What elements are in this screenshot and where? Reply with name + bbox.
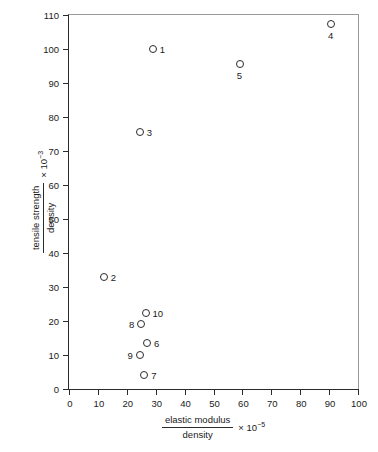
y-axis-exponent: −3 [37,151,44,159]
data-point[interactable]: 5 [236,60,244,68]
y-axis-tick: 110 [63,15,69,16]
y-axis-tick: 50 [63,219,69,220]
data-point-label: 4 [328,30,333,41]
y-axis-tick: 10 [63,355,69,356]
y-axis-title: tensile strength density × 10−3 [30,14,60,390]
y-axis-tick: 100 [63,49,69,50]
y-axis-tick: 60 [63,185,69,186]
x-axis-tick-label: 80 [296,397,307,410]
x-axis-tick: 80 [300,389,301,395]
x-axis-tick: 40 [185,389,186,395]
x-axis-tick-label: 100 [351,397,367,410]
data-point-label: 2 [111,272,116,283]
y-axis-tick: 40 [63,253,69,254]
y-axis-multiplier: × 10−3 [38,151,49,178]
y-axis-tick: 90 [63,83,69,84]
x-axis-tick: 70 [271,389,272,395]
y-axis-tick: 20 [63,321,69,322]
x-axis-tick: 90 [329,389,330,395]
data-point-label: 6 [154,338,159,349]
y-axis-multiplier-text: × 10 [38,159,49,178]
x-axis-fraction: elastic modulus density [162,414,233,441]
data-point-label: 10 [153,308,164,319]
x-axis-multiplier: × 10−5 [238,422,265,433]
data-point-label: 9 [128,350,133,361]
y-axis-tick: 80 [63,117,69,118]
data-point[interactable]: 3 [136,128,144,136]
scatter-chart: 0102030405060708090100110010203040506070… [0,0,378,452]
data-point-label: 3 [147,127,152,138]
plot-area: 0102030405060708090100110010203040506070… [68,14,359,390]
y-axis-fraction: tensile strength density [30,183,57,253]
x-axis-tick-label: 10 [94,397,105,410]
x-axis-tick-label: 0 [67,397,72,410]
data-point-label: 8 [129,319,134,330]
x-axis-tick-label: 30 [151,397,162,410]
data-point[interactable]: 1 [149,45,157,53]
data-point[interactable]: 9 [136,351,144,359]
x-axis-title: elastic modulus density × 10−5 [68,414,359,441]
data-point[interactable]: 10 [142,309,150,317]
x-axis-tick: 20 [127,389,128,395]
x-axis-tick-label: 60 [238,397,249,410]
x-axis-exponent: −5 [257,421,265,428]
x-axis-numerator: elastic modulus [162,414,233,428]
data-point[interactable]: 4 [327,20,335,28]
data-point[interactable]: 8 [137,320,145,328]
x-axis-tick-label: 40 [180,397,191,410]
x-axis-tick: 50 [214,389,215,395]
data-point[interactable]: 2 [100,273,108,281]
x-axis-tick: 30 [156,389,157,395]
data-point-label: 1 [160,44,165,55]
x-axis-denominator: density [162,428,233,441]
data-point[interactable]: 7 [140,371,148,379]
x-axis-tick-label: 20 [123,397,134,410]
data-point-label: 5 [237,70,242,81]
data-point[interactable]: 6 [143,339,151,347]
x-axis-tick: 10 [98,389,99,395]
x-axis-tick: 100 [358,389,359,395]
x-axis-tick-label: 70 [267,397,278,410]
data-point-label: 7 [151,370,156,381]
x-axis-tick-label: 90 [325,397,336,410]
y-axis-tick: 30 [63,287,69,288]
y-axis-denominator: density [44,183,57,253]
y-axis-tick: 70 [63,151,69,152]
x-axis-tick: 60 [242,389,243,395]
x-axis-multiplier-text: × 10 [238,422,257,433]
x-axis-tick-label: 50 [209,397,220,410]
y-axis-numerator: tensile strength [30,183,44,253]
x-axis-tick: 0 [69,389,70,395]
